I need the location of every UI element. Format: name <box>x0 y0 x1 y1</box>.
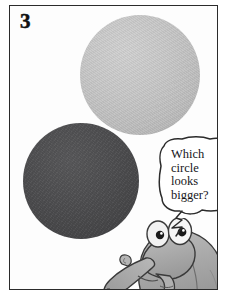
speech-bubble-text: Which circle looks bigger? <box>171 148 218 202</box>
comic-panel: 3 <box>0 0 232 303</box>
speech-bubble: Which circle looks bigger? <box>152 132 218 244</box>
light-circle-texture <box>80 15 200 135</box>
panel-frame: 3 <box>9 5 218 290</box>
panel-number: 3 <box>20 11 31 32</box>
light-circle <box>80 15 200 135</box>
